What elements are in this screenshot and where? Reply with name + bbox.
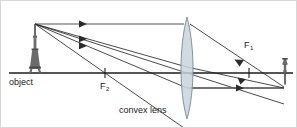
ray-arrowhead-5 [238, 77, 246, 84]
focal-point-label-f1: F 1 [244, 40, 254, 51]
ray-arrowhead-2 [235, 60, 245, 67]
ray-lower-incident [35, 24, 187, 88]
f1-subscript: 1 [250, 45, 254, 51]
ray-arrowhead-1 [79, 21, 87, 28]
ray-through-centre [35, 24, 284, 104]
optics-diagram-figure: object convex lens F 2 F 1 [0, 0, 297, 128]
ray-mid-incident [35, 24, 187, 67]
convex-lens [181, 17, 193, 119]
object-label: object [9, 77, 34, 87]
ray-diagram-canvas: object convex lens F 2 F 1 [1, 1, 296, 127]
ray-arrowhead-4 [79, 35, 87, 42]
f2-subscript: 2 [106, 86, 110, 92]
object-tower [29, 24, 41, 73]
focal-point-label-f2: F 2 [100, 81, 110, 92]
convex-lens-label: convex lens [119, 105, 167, 115]
image-tower-inverted [282, 58, 288, 85]
ray-parallel-incident [35, 21, 184, 28]
ray-arrowhead-6 [79, 42, 87, 49]
